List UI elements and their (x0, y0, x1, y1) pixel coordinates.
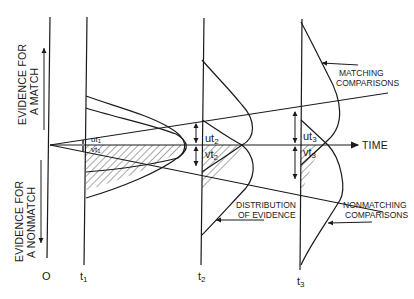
nonmatching-label-line2: COMPARISONS (345, 210, 408, 220)
t2-label: t2 (198, 270, 206, 284)
nonmatch-label-line2: A NONMATCH (25, 187, 37, 258)
distribution-label-line1: DISTRIBUTION (236, 200, 296, 210)
t2-line (201, 18, 204, 265)
nonmatching-label-line1: NONMATCHING (343, 200, 407, 210)
ut3-label: ut3 (303, 130, 317, 144)
matching-label-line1: MATCHING (339, 68, 384, 78)
ut2-label: ut2 (205, 132, 219, 146)
origin-label: O (42, 270, 51, 282)
match-label-line2: A MATCH (28, 68, 40, 115)
time-label: TIME (362, 139, 388, 151)
match-label-line1: EVIDENCE FOR (16, 44, 28, 125)
t3-label: t3 (297, 275, 305, 289)
distribution-label-line2: OF EVIDENCE (238, 210, 296, 220)
match-distribution-t3 (301, 22, 340, 165)
matching-pointer-arrow (322, 63, 358, 65)
t1-label: t1 (80, 270, 88, 284)
hatched-region-t1 (86, 145, 185, 190)
origin-axis (47, 17, 50, 258)
matching-label-line2: COMPARISONS (336, 78, 399, 88)
t1-line (84, 17, 87, 265)
ut1-label: ut1 (91, 135, 102, 144)
nonmatching-pointer-arrow (328, 222, 372, 223)
evidence-accumulation-diagram: EVIDENCE FOR A MATCH EVIDENCE FOR A NONM… (0, 0, 414, 299)
nonmatch-label-line1: EVIDENCE FOR (13, 181, 25, 262)
